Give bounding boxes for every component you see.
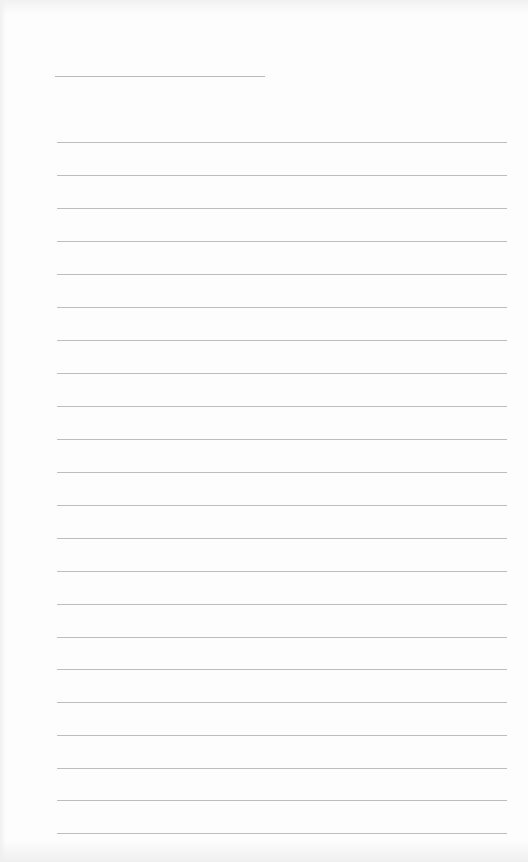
scan-edge-left: [0, 0, 6, 862]
ruled-line: [57, 472, 507, 473]
ruled-line: [57, 702, 507, 703]
scan-edge-top: [0, 0, 528, 14]
scan-edge-bottom: [0, 840, 528, 862]
ruled-line: [57, 800, 507, 801]
ruled-line: [57, 340, 507, 341]
ruled-line: [57, 439, 507, 440]
ruled-line: [57, 669, 507, 670]
ruled-line: [57, 142, 507, 143]
ruled-line: [57, 637, 507, 638]
ruled-line: [57, 538, 507, 539]
lined-paper-page: [0, 0, 528, 862]
ruled-line: [57, 307, 507, 308]
ruled-line: [57, 768, 507, 769]
ruled-line: [57, 571, 507, 572]
ruled-line: [57, 833, 507, 834]
ruled-line: [57, 373, 507, 374]
ruled-line: [57, 735, 507, 736]
ruled-line: [57, 406, 507, 407]
header-write-line: [55, 76, 265, 77]
ruled-line: [57, 604, 507, 605]
ruled-line: [57, 208, 507, 209]
ruled-line: [57, 505, 507, 506]
ruled-line: [57, 175, 507, 176]
ruled-line: [57, 274, 507, 275]
ruled-line: [57, 241, 507, 242]
